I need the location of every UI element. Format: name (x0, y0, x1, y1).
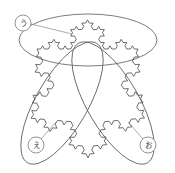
ellipse-left (5, 30, 119, 173)
callout-group: う え お (15, 15, 156, 153)
callout-o-leader (128, 122, 143, 139)
callout-u-label: う (20, 19, 27, 28)
callout-u[interactable]: う (15, 15, 72, 34)
callout-o[interactable]: お (128, 122, 156, 153)
koch-snowflake-figure: う え お (0, 0, 175, 173)
callout-e[interactable]: え (28, 122, 56, 153)
koch-snowflake-curve (31, 20, 144, 158)
callout-u-leader (31, 24, 72, 34)
callout-e-label: え (33, 141, 40, 150)
figure-container: う え お (0, 0, 175, 173)
callout-o-label: お (145, 141, 153, 150)
ellipse-top (19, 14, 157, 66)
callout-e-leader (41, 122, 56, 139)
